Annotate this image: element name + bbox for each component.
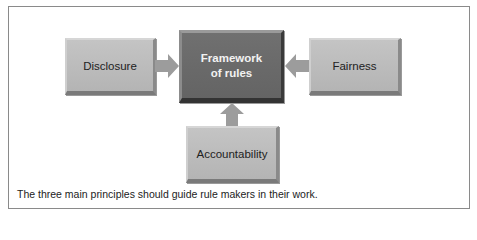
accountability-box: Accountability xyxy=(186,126,279,183)
framework-label-line1: Framework xyxy=(201,51,262,66)
arrow-up-icon xyxy=(220,103,244,127)
disclosure-label: Disclosure xyxy=(83,60,137,72)
disclosure-box: Disclosure xyxy=(65,38,156,95)
arrow-right-icon xyxy=(155,54,180,78)
fairness-box: Fairness xyxy=(309,38,401,95)
accountability-label: Accountability xyxy=(197,148,268,160)
figure-caption: The three main principles should guide r… xyxy=(17,188,318,200)
arrow-left-icon xyxy=(284,54,309,78)
framework-label-line2: of rules xyxy=(211,66,253,81)
fairness-label: Fairness xyxy=(332,60,376,72)
framework-of-rules-box: Framework of rules xyxy=(179,30,284,103)
